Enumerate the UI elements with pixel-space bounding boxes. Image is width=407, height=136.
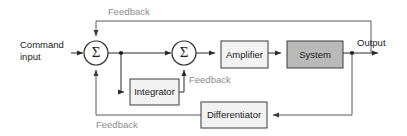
summing-junction-2-sigma: Σ	[180, 44, 189, 60]
wire-integrator-to-sum2	[179, 70, 184, 92]
wire-branch-to-integrator	[121, 53, 124, 92]
block-amplifier-label: Amplifier	[226, 49, 263, 60]
block-system-label: System	[299, 49, 331, 60]
feedback-label-middle: Feedback	[189, 74, 231, 85]
block-diagram: Σ Σ Amplifier System Integrator Differen…	[0, 0, 407, 136]
diagram-canvas: Σ Σ Amplifier System Integrator Differen…	[0, 0, 407, 136]
feedback-label-top: Feedback	[108, 6, 150, 17]
block-amplifier: Amplifier	[221, 41, 268, 68]
output-label: Output	[357, 37, 386, 48]
block-differentiator-label: Differentiator	[207, 109, 261, 120]
block-integrator: Integrator	[130, 79, 179, 105]
summing-junction-2: Σ	[172, 41, 196, 65]
feedback-label-bottom: Feedback	[96, 119, 138, 130]
block-integrator-label: Integrator	[134, 86, 175, 97]
summing-junction-1-sigma: Σ	[92, 44, 101, 60]
block-system: System	[287, 41, 343, 68]
command-input-label-line2: input	[20, 51, 41, 62]
block-differentiator: Differentiator	[201, 102, 267, 128]
summing-junction-1: Σ	[84, 41, 108, 65]
command-input-label-line1: Command	[20, 39, 64, 50]
